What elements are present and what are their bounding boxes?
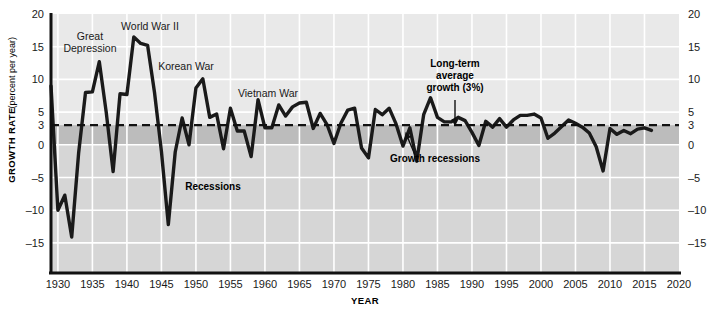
- x-tick-label: 1990: [460, 278, 484, 290]
- annotation-line: Depression: [63, 42, 116, 54]
- annotation-line: Long-term: [430, 58, 480, 69]
- y-tick-label-right: –10: [688, 204, 706, 216]
- y-axis-title: GROWTH RATE(percent per year): [6, 37, 17, 183]
- y-tick-label-left: –10: [26, 204, 44, 216]
- x-tick-label: 1985: [425, 278, 449, 290]
- y-tick-label-left: 10: [32, 73, 44, 85]
- annotation-line: World War II: [121, 20, 179, 32]
- annotation-vietnam-war: Vietnam War: [238, 87, 299, 99]
- x-tick-label: 1950: [184, 278, 208, 290]
- annotation-line: average: [436, 70, 474, 81]
- annotation-line: growth (3%): [426, 82, 483, 93]
- recessions-band: [51, 145, 679, 273]
- x-tick-label: 1960: [253, 278, 277, 290]
- x-tick-label: 1975: [356, 278, 380, 290]
- annotation-line: Recessions: [185, 181, 241, 192]
- x-tick-label: 1970: [322, 278, 346, 290]
- y-tick-label-left: 15: [32, 41, 44, 53]
- x-tick-label: 1930: [46, 278, 70, 290]
- y-tick-label-right: 20: [688, 8, 700, 20]
- y-tick-label-right: 15: [688, 41, 700, 53]
- x-tick-label: 1995: [494, 278, 518, 290]
- y-tick-label-right: –15: [688, 237, 706, 249]
- y-tick-label-right: 0: [688, 139, 694, 151]
- annotation-line: Growth recessions: [390, 153, 480, 164]
- annotation-line: Vietnam War: [238, 87, 299, 99]
- annotation-growth-recessions: Growth recessions: [390, 153, 480, 164]
- x-tick-label: 1940: [115, 278, 139, 290]
- y-axis-title-unit: (percent per year): [7, 37, 17, 109]
- x-axis-title: YEAR: [351, 295, 379, 306]
- x-tick-label: 1965: [287, 278, 311, 290]
- y-tick-label-left: –5: [32, 172, 44, 184]
- x-tick-label: 2005: [563, 278, 587, 290]
- y-axis-title-main: GROWTH RATE: [6, 107, 17, 182]
- annotation-line: Korean War: [158, 60, 214, 72]
- y-tick-label-left: 20: [32, 8, 44, 20]
- x-tick-label: 1945: [149, 278, 173, 290]
- y-tick-label-left: 0: [38, 139, 44, 151]
- annotation-world-war-ii: World War II: [121, 20, 179, 32]
- annotation-line: Great: [77, 30, 103, 42]
- y-tick-label-left: 5: [38, 106, 44, 118]
- x-tick-label: 2010: [598, 278, 622, 290]
- x-tick-label: 2020: [667, 278, 691, 290]
- annotation-korean-war: Korean War: [158, 60, 214, 72]
- y-tick-label-left: –15: [26, 237, 44, 249]
- x-tick-label: 1955: [218, 278, 242, 290]
- x-tick-label: 2000: [529, 278, 553, 290]
- x-tick-label: 1980: [391, 278, 415, 290]
- y-tick-label-right: 5: [688, 106, 694, 118]
- x-tick-label: 1935: [80, 278, 104, 290]
- growth-rate-chart: 1930193519401945195019551960196519701975…: [0, 0, 714, 316]
- y-tick-label-left: 3: [38, 119, 44, 131]
- chart-canvas: 1930193519401945195019551960196519701975…: [0, 0, 714, 316]
- y-tick-label-right: 3: [688, 119, 694, 131]
- y-tick-label-right: 10: [688, 73, 700, 85]
- annotation-recessions: Recessions: [185, 181, 241, 192]
- x-tick-label: 2015: [632, 278, 656, 290]
- y-tick-label-right: –5: [688, 172, 700, 184]
